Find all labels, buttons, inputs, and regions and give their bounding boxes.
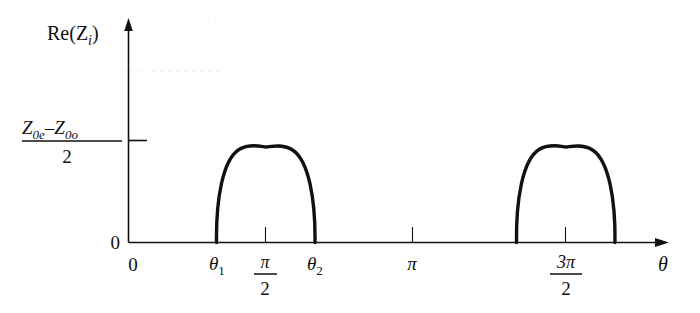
x-tick-label-theta-1: θ1: [209, 253, 225, 278]
pi-over-2-numerator: π: [260, 252, 270, 272]
y-axis-arrowhead: [124, 18, 133, 31]
plot-svg: Re(Zi) Z0e–Z0o 2 0 0 θ1 π 2 θ2 π 3π 2: [0, 0, 700, 313]
x-tick-marks: [266, 227, 566, 243]
y-tick-label-fraction: Z0e–Z0o 2: [22, 117, 122, 167]
origin-x-label: 0: [128, 254, 138, 275]
x-tick-label-theta-2: θ2: [307, 253, 323, 278]
pi-over-2-denominator: 2: [260, 278, 270, 299]
x-tick-label-pi-over-2: π 2: [254, 252, 277, 299]
figure-container: · ·· ·· · ··· · ·· · · ·· · · · · · · · …: [0, 0, 700, 313]
y-axis-label: Re(Zi): [47, 22, 99, 48]
three-pi-over-2-denominator: 2: [561, 278, 571, 299]
fraction-numerator: Z0e–Z0o: [22, 117, 78, 142]
x-tick-label-three-pi-over-2: 3π 2: [550, 252, 582, 299]
x-axis-label: θ: [658, 253, 668, 275]
fraction-denominator: 2: [62, 146, 72, 167]
three-pi-over-2-numerator: 3π: [556, 252, 576, 272]
x-axis-arrowhead: [655, 238, 669, 247]
axis-group: [124, 18, 669, 247]
x-tick-label-pi: π: [407, 253, 417, 274]
origin-y-label: 0: [111, 232, 121, 253]
